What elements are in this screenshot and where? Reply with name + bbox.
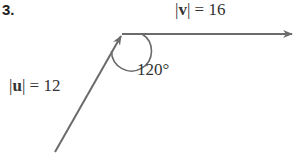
angle-label: 120° bbox=[137, 60, 169, 80]
vector-v-label: |v| = 16 bbox=[175, 0, 225, 20]
vector-u-label: |u| = 12 bbox=[9, 76, 60, 96]
